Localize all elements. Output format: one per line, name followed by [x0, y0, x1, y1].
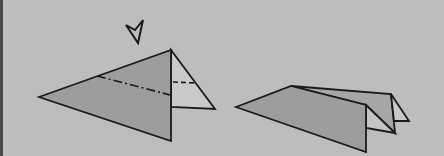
step-2-figure: [236, 86, 409, 152]
diagram-canvas: Fold along dash-dot line toward viewer (…: [0, 0, 444, 156]
fold-arrow-icon: [126, 20, 143, 43]
white-flap: [171, 50, 215, 109]
dashed-hidden-line: [173, 82, 196, 83]
shaded-wing: [39, 50, 171, 141]
tail-flap: [391, 94, 409, 121]
step-1-figure: [39, 20, 215, 141]
folding-diagram: [0, 0, 444, 156]
